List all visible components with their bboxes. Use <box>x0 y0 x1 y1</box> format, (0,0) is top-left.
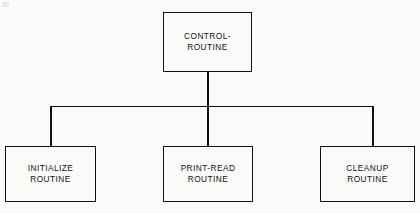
node-print-read-routine[interactable]: PRINT-READ ROUTINE <box>163 146 253 202</box>
connector-control-to-bus <box>207 72 209 146</box>
node-cleanup-routine[interactable]: CLEANUP ROUTINE <box>320 146 415 202</box>
node-print-read-routine-line1: PRINT-READ <box>181 163 236 174</box>
node-cleanup-routine-line2: ROUTINE <box>347 174 388 185</box>
connector-bus-to-initialize <box>50 106 52 146</box>
scan-artifact <box>2 2 9 7</box>
node-control-routine-line2: ROUTINE <box>187 42 228 53</box>
node-cleanup-routine-line1: CLEANUP <box>346 163 388 174</box>
node-initialize-routine[interactable]: INITIALIZE ROUTINE <box>5 146 96 202</box>
node-print-read-routine-line2: ROUTINE <box>188 174 229 185</box>
connector-bus-to-cleanup <box>372 106 374 146</box>
connector-horizontal-bus <box>50 106 374 108</box>
node-control-routine[interactable]: CONTROL- ROUTINE <box>163 12 252 72</box>
node-control-routine-line1: CONTROL- <box>184 31 231 42</box>
node-initialize-routine-line2: ROUTINE <box>30 174 71 185</box>
structure-chart-canvas: CONTROL- ROUTINE INITIALIZE ROUTINE PRIN… <box>0 0 420 213</box>
node-initialize-routine-line1: INITIALIZE <box>28 163 74 174</box>
